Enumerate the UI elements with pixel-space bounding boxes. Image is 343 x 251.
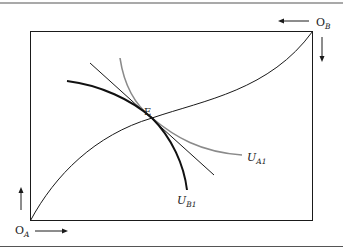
equilibrium-label: E <box>144 106 151 117</box>
u-b1-label: UB1 <box>177 194 197 209</box>
arrow-right-icon <box>35 229 68 234</box>
u-a1-label: UA1 <box>247 151 266 166</box>
edgeworth-box-diagram: OA OB E UA1 UB1 <box>0 0 343 251</box>
contract-curve <box>31 32 313 221</box>
origin-b-label: OB <box>316 16 331 31</box>
origin-a-label: OA <box>15 224 30 239</box>
edgeworth-box <box>31 32 313 221</box>
arrow-left-icon <box>278 19 309 24</box>
arrow-down-icon <box>320 37 325 62</box>
indifference-curve-b1 <box>67 81 187 190</box>
arrow-up-icon <box>19 187 24 210</box>
